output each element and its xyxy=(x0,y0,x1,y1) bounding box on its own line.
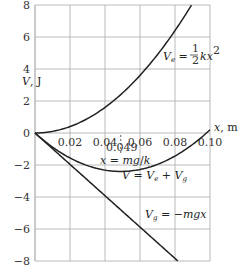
svg-text:−6: −6 xyxy=(14,223,30,236)
marker-equation: x = mg/k xyxy=(100,154,151,167)
svg-text:−8: −8 xyxy=(14,255,30,268)
ve-label: Ve = 1 2 kx 2 xyxy=(163,42,220,67)
svg-text:x = mg/k: x = mg/k xyxy=(100,154,151,167)
svg-text:kx: kx xyxy=(200,50,214,63)
svg-text:0: 0 xyxy=(23,127,30,140)
svg-text:0.02: 0.02 xyxy=(58,136,83,149)
svg-text:2: 2 xyxy=(23,95,30,108)
tick-labels: 86420−2−4−6−80.020.040.060.080.10 xyxy=(14,0,222,268)
svg-text:2: 2 xyxy=(213,44,220,57)
svg-text:Vg = −mgx: Vg = −mgx xyxy=(145,208,207,222)
vg-label: Vg = −mgx xyxy=(145,208,207,222)
grid xyxy=(35,5,210,261)
svg-text:2: 2 xyxy=(192,54,199,67)
v-total-label: V = Ve + Vg xyxy=(122,169,187,183)
svg-text:6: 6 xyxy=(23,31,30,44)
svg-text:−2: −2 xyxy=(14,159,30,172)
svg-text:Ve =: Ve = xyxy=(163,50,188,64)
marker-value: 0.049 xyxy=(106,141,138,154)
svg-text:8: 8 xyxy=(23,0,30,12)
svg-text:V = Ve + Vg: V = Ve + Vg xyxy=(122,169,187,183)
svg-text:0.08: 0.08 xyxy=(163,136,188,149)
y-axis-label: V, J xyxy=(22,75,41,88)
x-axis-label: x, m xyxy=(214,121,238,134)
svg-text:−4: −4 xyxy=(14,191,30,204)
energy-chart: 86420−2−4−6−80.020.040.060.080.10 V, J x… xyxy=(0,0,244,271)
